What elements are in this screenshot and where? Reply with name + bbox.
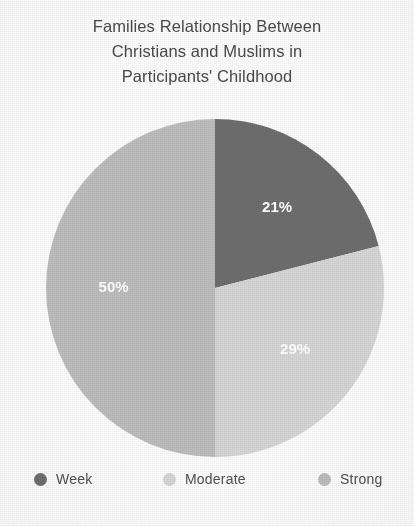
title-line-1: Families Relationship Between: [0, 14, 414, 39]
legend-swatch-icon-moderate: [163, 473, 176, 486]
legend-label-strong: Strong: [340, 471, 382, 487]
title-line-2: Christians and Muslims in: [0, 39, 414, 64]
legend-item-strong[interactable]: Strong: [318, 468, 382, 490]
pie-slice-label-strong: 50%: [99, 278, 129, 295]
legend-label-week: Week: [56, 471, 92, 487]
legend-swatch-icon-week: [34, 473, 47, 486]
legend: Week Moderate Strong: [0, 468, 414, 498]
pie-slice-label-moderate: 29%: [280, 340, 310, 357]
pie-svg: 21% 29% 50%: [46, 119, 384, 457]
legend-item-moderate[interactable]: Moderate: [163, 468, 246, 490]
legend-label-moderate: Moderate: [185, 471, 246, 487]
pie-slice-label-week: 21%: [262, 198, 292, 215]
pie-plot-area: 21% 29% 50%: [46, 119, 384, 457]
pie-chart-figure: Families Relationship Between Christians…: [0, 0, 414, 526]
title-line-3: Participants' Childhood: [0, 64, 414, 89]
legend-item-week[interactable]: Week: [34, 468, 92, 490]
page-title: Families Relationship Between Christians…: [0, 14, 414, 89]
legend-swatch-icon-strong: [318, 473, 331, 486]
pie-slice-strong[interactable]: [46, 119, 215, 457]
